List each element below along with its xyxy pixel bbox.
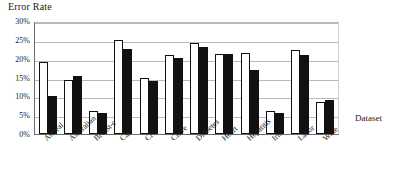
plot-area xyxy=(34,22,339,135)
bar-group xyxy=(140,23,158,134)
bar xyxy=(316,102,325,134)
y-tick-label: 15% xyxy=(2,74,30,83)
y-tick-label: 25% xyxy=(2,36,30,45)
bar xyxy=(165,55,174,134)
x-axis-title: Dataset xyxy=(355,113,382,123)
bar-group xyxy=(165,23,183,134)
bar xyxy=(291,50,300,134)
bar xyxy=(300,55,309,134)
bar xyxy=(140,78,149,135)
bar xyxy=(241,53,250,134)
chart-figure: Error Rate 30%25%20%15%10%5%0% AnnealAus… xyxy=(0,0,402,187)
bar xyxy=(123,49,132,134)
bar xyxy=(224,54,233,134)
bar-group xyxy=(316,23,334,134)
bar xyxy=(64,80,73,134)
y-tick-label: 10% xyxy=(2,92,30,101)
y-tick-label: 0% xyxy=(2,130,30,139)
bar xyxy=(149,81,158,134)
bar xyxy=(190,43,199,134)
bar-group xyxy=(215,23,233,134)
y-tick-label: 30% xyxy=(2,17,30,26)
x-axis-tick-labels: AnnealAustralianBreast-cCarCrxCleveDiabe… xyxy=(34,136,339,186)
bar-group xyxy=(190,23,208,134)
bar xyxy=(39,62,48,134)
bar-group xyxy=(39,23,57,134)
y-tick-label: 5% xyxy=(2,111,30,120)
bar-groups xyxy=(35,23,338,134)
bar-group xyxy=(64,23,82,134)
chart-title: Error Rate xyxy=(8,1,52,12)
bar-group xyxy=(266,23,284,134)
bar xyxy=(174,58,183,134)
bar-group xyxy=(291,23,309,134)
bar xyxy=(199,47,208,134)
bar-group xyxy=(114,23,132,134)
bar xyxy=(114,40,123,134)
bar-group xyxy=(241,23,259,134)
y-tick-label: 20% xyxy=(2,55,30,64)
